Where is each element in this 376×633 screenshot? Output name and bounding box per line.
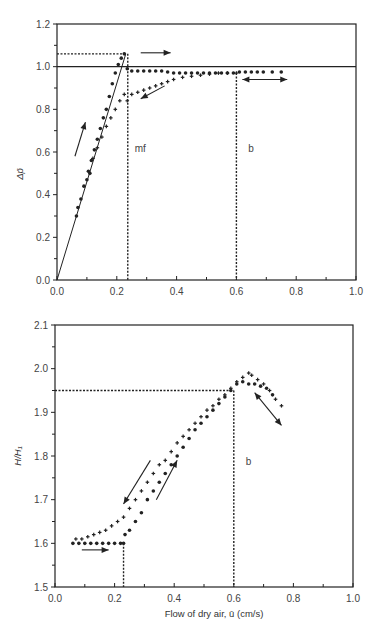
x-tick-label: 1.0 [349,286,363,297]
double-arrow-icon [255,393,282,426]
up-arrow-icon [75,122,86,156]
right-arrow-icon [82,547,109,553]
bottom-chart-bed-height-ratio: 0.00.20.40.60.81.01.51.61.71.81.92.02.1H… [12,320,360,620]
annotation-b: b [248,143,254,154]
x-tick-label: 0.2 [110,286,124,297]
y-tick-label: 0.2 [36,232,50,243]
y-tick-label: 2.0 [34,363,48,374]
y-tick-label: 1.7 [34,494,48,505]
y-tick-label: 1.5 [34,582,48,593]
chart-figure: 0.00.20.40.60.81.00.00.20.40.60.81.01.2Δ… [0,0,376,633]
annotation-mf: mf [135,143,146,154]
plot-frame [55,325,353,587]
x-tick-label: 0.4 [167,593,181,604]
x-tick-label: 0.0 [48,593,62,604]
x-tick-label: 0.8 [289,286,303,297]
y-tick-label: 0.6 [36,147,50,158]
x-axis-title: Flow of dry air, ū (cm/s) [165,608,264,619]
y-tick-label: 1.2 [36,19,50,30]
x-tick-label: 1.0 [346,593,360,604]
y-axis-title: Δp̄ [14,168,25,181]
right-arrow-icon [141,50,171,56]
y-tick-label: 1.6 [34,538,48,549]
y-tick-label: 0.0 [36,275,50,286]
down-left-arrow-icon [141,86,165,99]
y-tick-label: 0.8 [36,104,50,115]
y-tick-label: 2.1 [34,320,48,331]
x-tick-label: 0.8 [286,593,300,604]
plot-frame [57,24,356,280]
x-tick-label: 0.4 [170,286,184,297]
series-dots [75,52,283,218]
top-chart-pressure-drop: 0.00.20.40.60.81.00.00.20.40.60.81.01.2Δ… [14,19,363,298]
linear-fit-line [57,54,126,280]
series-dots [71,380,274,545]
x-tick-label: 0.0 [50,286,64,297]
x-tick-label: 0.2 [108,593,122,604]
y-tick-label: 0.4 [36,189,50,200]
y-tick-label: 1.0 [36,61,50,72]
x-tick-label: 0.6 [227,593,241,604]
y-axis-title: H/H₁ [12,446,23,465]
y-tick-label: 1.9 [34,407,48,418]
y-tick-label: 1.8 [34,451,48,462]
annotation-b: b [246,456,252,467]
x-tick-label: 0.6 [229,286,243,297]
double-arrow-icon [242,76,287,82]
